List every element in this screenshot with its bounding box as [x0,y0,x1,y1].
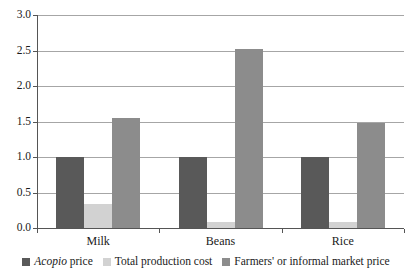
legend-swatch-icon [22,258,30,266]
bar [179,157,207,228]
bar [112,118,140,228]
y-tick-label: 1.5 [17,116,31,128]
y-tick-label: 2.5 [17,45,31,57]
legend-swatch-icon [103,258,111,266]
legend-item: Acopio price [22,255,92,268]
bar [357,123,385,228]
x-tick-mark [282,229,283,233]
plot-area [37,15,404,228]
legend-label-italic-part: Acopio [34,255,67,267]
y-tick-label: 3.0 [17,9,31,21]
bar [235,49,263,228]
legend-label-rest: price [67,255,93,267]
x-axis-baseline [37,228,404,229]
y-tick-label: 0.5 [17,187,31,199]
legend-label: Acopio price [34,255,92,268]
legend-label: Farmers' or informal market price [234,255,389,268]
x-category-label: Rice [303,234,383,248]
legend-item: Total production cost [103,255,213,268]
bar [84,204,112,228]
x-tick-mark [404,229,405,233]
x-category-label: Milk [58,234,138,248]
legend-swatch-icon [222,258,230,266]
x-tick-mark [159,229,160,233]
y-tick-label: 1.0 [17,151,31,163]
bar [329,222,357,228]
x-category-label: Beans [181,234,261,248]
bar-chart-figure: 0.00.51.01.52.02.53.0 MilkBeansRice Acop… [0,0,412,280]
bar [301,157,329,228]
y-tick-label: 2.0 [17,80,31,92]
chart-legend: Acopio priceTotal production costFarmers… [0,255,412,268]
bar [207,222,235,228]
legend-item: Farmers' or informal market price [222,255,389,268]
legend-label: Total production cost [115,255,213,268]
y-tick-label: 0.0 [17,222,31,234]
x-tick-mark [37,229,38,233]
bar [56,157,84,228]
